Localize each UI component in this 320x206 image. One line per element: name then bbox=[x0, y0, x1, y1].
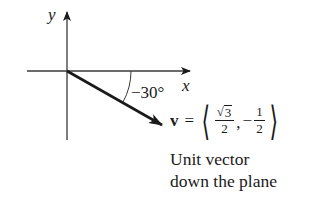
y-component-denominator: 2 bbox=[256, 121, 263, 137]
radical-sign: √ bbox=[217, 105, 224, 119]
angle-arc bbox=[123, 71, 131, 102]
angle-label: −30° bbox=[131, 84, 164, 101]
radicand: 3 bbox=[224, 105, 233, 120]
x-component-fraction: √3 2 bbox=[215, 105, 235, 138]
x-component-denominator: 2 bbox=[221, 121, 228, 137]
square-root: √3 bbox=[217, 105, 233, 120]
close-angle-bracket: ⟩ bbox=[269, 101, 278, 141]
vector-equation: v = ⟨ √3 2 , − 1 2 ⟩ bbox=[170, 100, 281, 142]
caption: Unit vector down the plane bbox=[170, 148, 277, 192]
y-component-fraction: 1 2 bbox=[254, 105, 265, 137]
caption-line-1: Unit vector bbox=[170, 148, 277, 170]
y-component-numerator: 1 bbox=[254, 105, 265, 121]
equals-sign: = bbox=[185, 111, 195, 131]
x-axis-label: x bbox=[182, 77, 190, 94]
x-component-numerator: √3 bbox=[215, 105, 235, 122]
open-angle-bracket: ⟨ bbox=[202, 101, 211, 141]
y-component-sign: − bbox=[243, 111, 253, 131]
component-separator: , bbox=[236, 113, 240, 142]
vector-name: v bbox=[170, 111, 179, 131]
y-axis-label: y bbox=[48, 6, 56, 23]
caption-line-2: down the plane bbox=[170, 170, 277, 192]
